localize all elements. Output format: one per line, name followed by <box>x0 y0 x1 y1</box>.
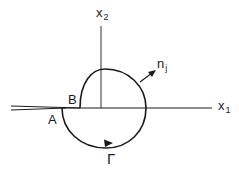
gamma-text: Γ <box>107 150 115 167</box>
diagram-canvas <box>0 0 239 172</box>
x1-axis-label: x1 <box>218 99 231 115</box>
x2-label-subscript: 2 <box>104 12 109 22</box>
normal-arrowhead-icon <box>148 70 156 77</box>
contour-direction-arrow-icon <box>104 140 113 148</box>
x2-label-base: x <box>96 5 103 20</box>
x1-label-base: x <box>218 98 225 113</box>
normal-label-subscript: j <box>165 63 167 73</box>
x1-label-subscript: 1 <box>226 105 231 115</box>
point-b-label: B <box>68 93 77 106</box>
crack-lower-face <box>11 108 66 110</box>
normal-label-base: n <box>157 56 164 71</box>
point-a-label: A <box>48 113 57 126</box>
point-b-text: B <box>68 92 77 107</box>
x2-axis-label: x2 <box>96 6 109 22</box>
normal-vector-label: nj <box>157 57 167 73</box>
contour-gamma-label: Γ <box>107 151 115 166</box>
point-a-text: A <box>48 112 57 127</box>
